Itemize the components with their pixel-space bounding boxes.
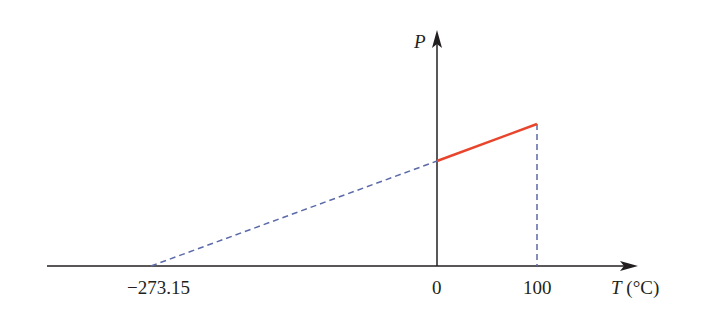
tick-label-neg: −273.15 — [127, 277, 190, 298]
y-axis-label: P — [413, 31, 426, 52]
measured-solid-line — [437, 124, 537, 161]
extrapolation-dashed-line — [151, 161, 437, 266]
chart-canvas: P −273.15 0 100 T (°C) — [0, 0, 723, 329]
tick-label-zero: 0 — [432, 277, 442, 298]
x-axis-label: T (°C) — [611, 277, 659, 299]
x-axis-unit: (°C) — [622, 277, 660, 299]
tick-label-hundred: 100 — [523, 277, 552, 298]
